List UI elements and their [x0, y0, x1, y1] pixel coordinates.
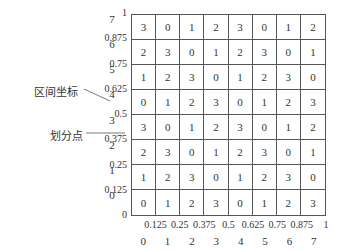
- leader-line-interval: [84, 89, 110, 101]
- annotation-leader-lines: [0, 0, 338, 251]
